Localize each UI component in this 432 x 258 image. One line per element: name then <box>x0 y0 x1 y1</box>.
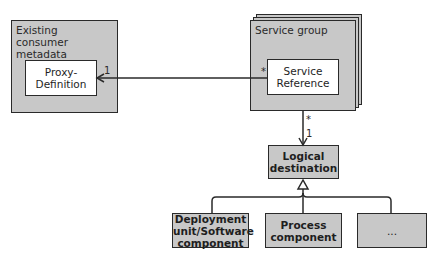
multiplicity-service-group-end: * <box>306 115 311 125</box>
generalization-triangle-icon <box>298 180 308 189</box>
connector-lines <box>0 0 432 258</box>
multiplicity-logical-dest-end: 1 <box>306 129 312 139</box>
multiplicity-proxy-end: 1 <box>104 66 110 76</box>
multiplicity-service-ref-end: * <box>261 67 266 77</box>
generalization-line-ellipsis <box>303 193 391 213</box>
generalization-line-deployment <box>212 193 303 213</box>
